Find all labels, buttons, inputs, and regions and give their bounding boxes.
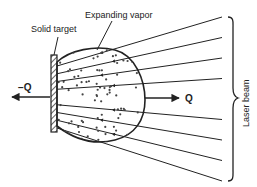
vapor-particle bbox=[112, 55, 114, 57]
vapor-particle bbox=[82, 93, 84, 95]
vapor-particle bbox=[97, 89, 99, 91]
vapor-particle bbox=[104, 133, 106, 135]
vapor-particle bbox=[119, 113, 121, 115]
vapor-particle bbox=[115, 94, 117, 96]
vapor-particle bbox=[63, 81, 65, 83]
vapor-particle bbox=[96, 69, 98, 71]
vapor-particle bbox=[71, 47, 73, 49]
vapor-particle bbox=[97, 139, 99, 141]
solid-target-leader bbox=[54, 37, 58, 55]
vapor-particle bbox=[137, 111, 139, 113]
vapor-particle bbox=[96, 127, 98, 129]
vapor-particle bbox=[68, 89, 70, 91]
vapor-particle bbox=[108, 89, 110, 91]
vapor-particle bbox=[58, 119, 60, 121]
vapor-particle bbox=[122, 59, 124, 61]
vapor-particle bbox=[100, 52, 102, 54]
vapor-particle bbox=[58, 81, 60, 83]
vapor-particle bbox=[117, 108, 119, 110]
vapor-particle bbox=[135, 86, 137, 88]
vapor-particle bbox=[67, 70, 69, 72]
vapor-particle bbox=[126, 60, 128, 62]
vapor-particle bbox=[97, 55, 99, 57]
vapor-particle bbox=[116, 62, 118, 64]
vapor-particle bbox=[116, 74, 118, 76]
vapor-particle bbox=[103, 87, 105, 89]
solid-target-label: Solid target bbox=[31, 24, 77, 34]
expanding-vapor-label: Expanding vapor bbox=[85, 10, 153, 20]
vapor-particle bbox=[59, 104, 61, 106]
vapor-particle bbox=[99, 86, 101, 88]
vapor-particle bbox=[77, 126, 79, 128]
vapor-particle bbox=[109, 91, 111, 93]
vapor-particle bbox=[92, 57, 94, 59]
vapor-particle bbox=[64, 49, 66, 51]
vapor-particle bbox=[98, 69, 100, 71]
vapor-particle bbox=[105, 78, 107, 80]
vapor-particle bbox=[123, 108, 125, 110]
vapor-particle bbox=[106, 49, 108, 51]
vapor-particle bbox=[115, 130, 117, 132]
plus-q-label: Q bbox=[185, 93, 193, 104]
vapor-particle bbox=[94, 99, 96, 101]
vapor-particle bbox=[96, 83, 98, 85]
vapor-particle bbox=[101, 114, 103, 116]
solid-target bbox=[51, 55, 57, 132]
vapor-particle bbox=[69, 68, 71, 70]
vapor-particle bbox=[104, 126, 106, 128]
vapor-particle bbox=[73, 76, 75, 78]
vapor-particle bbox=[76, 84, 78, 86]
vapor-particle bbox=[81, 120, 83, 122]
minus-q-label: −Q bbox=[18, 82, 32, 93]
vapor-particle bbox=[88, 80, 90, 82]
vapor-particle bbox=[87, 135, 89, 137]
vapor-particle bbox=[80, 81, 82, 83]
vapor-particle bbox=[101, 69, 103, 71]
vapor-particle bbox=[64, 135, 66, 137]
vapor-particle bbox=[97, 117, 99, 119]
vapor-particle bbox=[77, 75, 79, 77]
vapor-particle bbox=[80, 69, 82, 71]
expanding-vapor-leader bbox=[97, 21, 112, 50]
vapor-particle bbox=[85, 81, 87, 83]
vapor-particle bbox=[110, 85, 112, 87]
laser-beam-brace bbox=[228, 17, 238, 181]
vapor-particle bbox=[141, 65, 143, 67]
laser-beam-label: Laser beam bbox=[241, 79, 251, 127]
vapor-particle bbox=[95, 94, 97, 96]
vapor-particle bbox=[115, 54, 117, 56]
vapor-particle bbox=[117, 117, 119, 119]
vapor-particle bbox=[113, 126, 115, 128]
vapor-particle bbox=[97, 130, 99, 132]
vapor-particle bbox=[78, 131, 80, 133]
vapor-particle bbox=[120, 108, 122, 110]
vapor-particle bbox=[138, 129, 140, 131]
vapor-particle bbox=[61, 86, 63, 88]
vapor-particle bbox=[100, 100, 102, 102]
vapor-particle bbox=[106, 93, 108, 95]
vapor-particle bbox=[136, 72, 138, 74]
vapor-particle bbox=[68, 122, 70, 124]
vapor-particle bbox=[65, 141, 67, 143]
vapor-particle bbox=[70, 120, 72, 122]
vapor-particle bbox=[72, 141, 74, 143]
vapor-particle bbox=[59, 62, 61, 64]
laser-vapor-diagram: −Q Q Solid target Expanding vapor Laser … bbox=[0, 0, 257, 187]
